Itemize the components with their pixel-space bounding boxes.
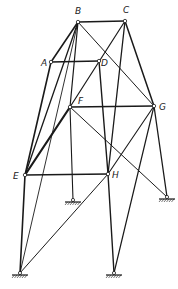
node-H: [106, 172, 109, 175]
member-A-D: [51, 61, 99, 62]
fixed-support-icon: [12, 271, 28, 278]
member-E-S3: [20, 175, 25, 273]
member-D-H: [99, 61, 108, 174]
member-E-H: [25, 174, 108, 175]
member-C-G: [125, 21, 154, 106]
node-label-C: C: [123, 5, 130, 15]
member-F-E: [25, 107, 70, 175]
fixed-support-icon: [106, 271, 122, 278]
node-label-A: A: [40, 58, 47, 68]
node-label-D: D: [101, 58, 108, 68]
member-B-A: [51, 22, 78, 62]
node-label-G: G: [159, 102, 166, 112]
member-B-E: [25, 22, 78, 175]
member-A-E: [25, 62, 51, 175]
member-F-S2: [70, 107, 167, 197]
space-truss-diagram: ABCDEFGH: [0, 0, 178, 289]
node-G: [152, 104, 155, 107]
node-C: [123, 19, 126, 22]
member-G-S2: [154, 106, 167, 197]
member-B-C: [78, 21, 125, 22]
fixed-supports: [12, 195, 175, 278]
node-B: [76, 20, 79, 23]
node-label-B: B: [75, 6, 81, 16]
fixed-support-icon: [159, 195, 175, 202]
node-F: [68, 105, 71, 108]
node-E: [23, 173, 26, 176]
member-H-S4: [108, 174, 114, 273]
node-label-E: E: [13, 171, 19, 181]
fixed-support-icon: [65, 198, 81, 205]
member-F-G: [70, 106, 154, 107]
node-label-H: H: [112, 170, 119, 180]
member-G-S4: [114, 106, 154, 273]
node-A: [49, 60, 52, 63]
member-B-S3: [20, 22, 78, 273]
member-F-S1: [70, 107, 73, 200]
node-labels: ABCDEFGH: [13, 5, 166, 181]
member-H-S3: [20, 174, 108, 273]
node-label-F: F: [78, 96, 84, 106]
